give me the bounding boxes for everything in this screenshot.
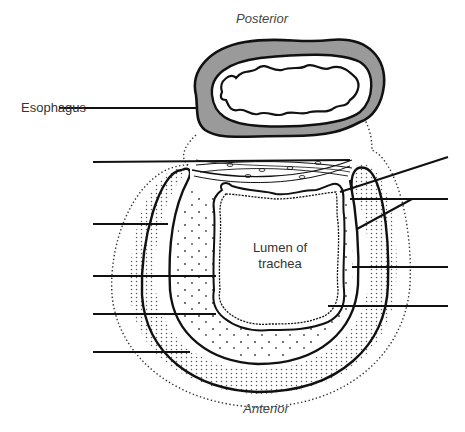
posterior-label: Posterior bbox=[232, 11, 292, 26]
trachea-cross-section-diagram: Posterior Anterior Esophagus Lumen of tr… bbox=[0, 0, 465, 432]
diagram-graphic bbox=[0, 0, 465, 432]
lumen-label: Lumen of trachea bbox=[240, 240, 320, 272]
lumen-label-line-1: Lumen of bbox=[240, 240, 320, 256]
anterior-label: Anterior bbox=[236, 401, 296, 416]
lumen-label-line-2: trachea bbox=[240, 256, 320, 272]
esophagus-label: Esophagus bbox=[21, 100, 86, 115]
